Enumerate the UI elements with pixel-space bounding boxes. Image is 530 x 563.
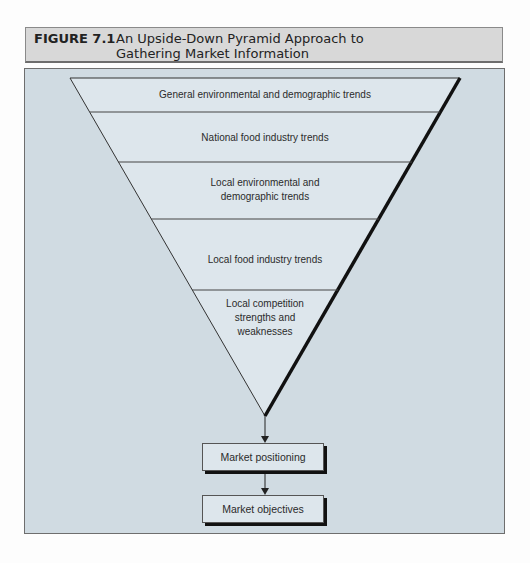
tier-3-label: Local environmental and demographic tren… <box>190 176 340 204</box>
tier-2-label: National food industry trends <box>120 131 410 145</box>
pyramid-diagram <box>0 0 530 563</box>
tier-1-label: General environmental and demographic tr… <box>100 88 430 102</box>
market-positioning-box: Market positioning <box>202 443 324 471</box>
market-objectives-box: Market objectives <box>202 495 324 523</box>
tier-5-label: Local competition strengths and weakness… <box>215 297 315 339</box>
arrow-down-icon <box>261 488 269 495</box>
arrow-down-icon <box>261 436 269 443</box>
pyramid-shape <box>70 78 460 416</box>
tier-4-label: Local food industry trends <box>170 253 360 267</box>
